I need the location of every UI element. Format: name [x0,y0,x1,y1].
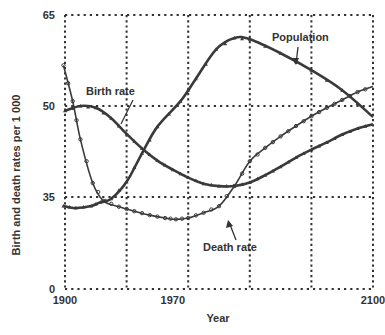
x-tick-label: 1900 [53,294,77,306]
line-population [63,37,373,208]
series-group [61,36,373,221]
arrowhead-icon [226,220,233,228]
y-tick-label: 50 [43,100,55,112]
annotation-death-rate: Death rate [203,220,257,253]
x-tick-label: 1970 [161,294,185,306]
series-population [61,36,373,209]
annotation-death-rate-label: Death rate [203,241,257,253]
annotation-population-label: Population [272,31,329,43]
series-birth-rate [63,104,373,188]
y-tick-label: 65 [43,9,55,21]
y-axis-ticks: 0355065 [43,9,55,295]
y-axis-title: Birth and death rates per 1 000 [10,95,22,256]
annotation-population: Population [272,31,329,65]
y-tick-label: 35 [43,191,55,203]
x-axis-title: Year [206,312,230,324]
x-axis-ticks: 190019702100 [53,294,385,306]
annotation-birth-rate-label: Birth rate [86,85,135,97]
chart: 0355065 190019702100 Year Birth and deat… [0,0,385,335]
x-tick-label: 2100 [361,294,385,306]
